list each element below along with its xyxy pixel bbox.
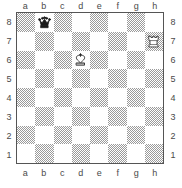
square-c5[interactable] (54, 69, 72, 88)
square-h7[interactable] (145, 32, 163, 51)
rank-label-left-1: 1 (3, 146, 15, 164)
square-g5[interactable] (127, 69, 145, 88)
square-g1[interactable] (127, 144, 145, 163)
square-e1[interactable] (90, 144, 108, 163)
file-label-top-c: c (53, 1, 71, 11)
square-d7[interactable] (72, 32, 90, 51)
square-b2[interactable] (35, 126, 53, 145)
square-e7[interactable] (90, 32, 108, 51)
black-queen[interactable] (35, 13, 53, 32)
chess-diagram: abcdefgh abcdefgh 87654321 87654321 (0, 0, 182, 188)
square-d4[interactable] (72, 88, 90, 107)
square-e8[interactable] (90, 13, 108, 32)
rank-label-left-7: 7 (3, 32, 15, 50)
rank-label-right-8: 8 (167, 13, 179, 31)
square-f2[interactable] (108, 126, 126, 145)
square-a2[interactable] (17, 126, 35, 145)
square-c4[interactable] (54, 88, 72, 107)
file-label-bottom-d: d (72, 168, 90, 178)
rank-label-right-2: 2 (167, 127, 179, 145)
square-e4[interactable] (90, 88, 108, 107)
square-e2[interactable] (90, 126, 108, 145)
square-g2[interactable] (127, 126, 145, 145)
file-label-top-a: a (16, 1, 34, 11)
square-g4[interactable] (127, 88, 145, 107)
file-label-bottom-e: e (90, 168, 108, 178)
square-h6[interactable] (145, 51, 163, 70)
file-label-top-f: f (109, 1, 127, 11)
rank-label-left-4: 4 (3, 89, 15, 107)
board-grid (17, 13, 163, 163)
square-b5[interactable] (35, 69, 53, 88)
rank-label-right-4: 4 (167, 89, 179, 107)
square-e3[interactable] (90, 107, 108, 126)
rank-label-right-5: 5 (167, 70, 179, 88)
rank-label-left-8: 8 (3, 13, 15, 31)
square-h8[interactable] (145, 13, 163, 32)
square-h1[interactable] (145, 144, 163, 163)
square-h2[interactable] (145, 126, 163, 145)
square-c7[interactable] (54, 32, 72, 51)
file-label-bottom-a: a (16, 168, 34, 178)
file-label-top-g: g (127, 1, 145, 11)
rank-label-right-7: 7 (167, 32, 179, 50)
square-c3[interactable] (54, 107, 72, 126)
square-g8[interactable] (127, 13, 145, 32)
square-c6[interactable] (54, 51, 72, 70)
square-h5[interactable] (145, 69, 163, 88)
square-f1[interactable] (108, 144, 126, 163)
square-f3[interactable] (108, 107, 126, 126)
square-d1[interactable] (72, 144, 90, 163)
chess-board[interactable] (16, 12, 164, 164)
white-rook[interactable] (145, 32, 163, 51)
square-b8[interactable] (35, 13, 53, 32)
square-f5[interactable] (108, 69, 126, 88)
square-g3[interactable] (127, 107, 145, 126)
square-a7[interactable] (17, 32, 35, 51)
rank-label-left-2: 2 (3, 127, 15, 145)
rank-label-right-1: 1 (167, 146, 179, 164)
file-label-bottom-f: f (109, 168, 127, 178)
white-king[interactable] (72, 51, 90, 70)
square-b6[interactable] (35, 51, 53, 70)
rank-label-right-6: 6 (167, 51, 179, 69)
square-a8[interactable] (17, 13, 35, 32)
file-label-bottom-b: b (35, 168, 53, 178)
square-g7[interactable] (127, 32, 145, 51)
file-label-top-h: h (146, 1, 164, 11)
square-a4[interactable] (17, 88, 35, 107)
file-label-top-b: b (35, 1, 53, 11)
square-g6[interactable] (127, 51, 145, 70)
square-h4[interactable] (145, 88, 163, 107)
square-b3[interactable] (35, 107, 53, 126)
square-a6[interactable] (17, 51, 35, 70)
square-c1[interactable] (54, 144, 72, 163)
square-f7[interactable] (108, 32, 126, 51)
square-a3[interactable] (17, 107, 35, 126)
rank-label-right-3: 3 (167, 108, 179, 126)
square-d8[interactable] (72, 13, 90, 32)
square-c2[interactable] (54, 126, 72, 145)
file-label-top-e: e (90, 1, 108, 11)
square-d2[interactable] (72, 126, 90, 145)
square-a5[interactable] (17, 69, 35, 88)
square-h3[interactable] (145, 107, 163, 126)
square-f8[interactable] (108, 13, 126, 32)
rank-label-left-3: 3 (3, 108, 15, 126)
square-b7[interactable] (35, 32, 53, 51)
square-b1[interactable] (35, 144, 53, 163)
square-d6[interactable] (72, 51, 90, 70)
file-label-top-d: d (72, 1, 90, 11)
square-d3[interactable] (72, 107, 90, 126)
square-d5[interactable] (72, 69, 90, 88)
square-e5[interactable] (90, 69, 108, 88)
square-f6[interactable] (108, 51, 126, 70)
square-a1[interactable] (17, 144, 35, 163)
file-label-bottom-h: h (146, 168, 164, 178)
square-b4[interactable] (35, 88, 53, 107)
rank-label-left-6: 6 (3, 51, 15, 69)
square-e6[interactable] (90, 51, 108, 70)
square-f4[interactable] (108, 88, 126, 107)
square-c8[interactable] (54, 13, 72, 32)
file-label-bottom-g: g (127, 168, 145, 178)
